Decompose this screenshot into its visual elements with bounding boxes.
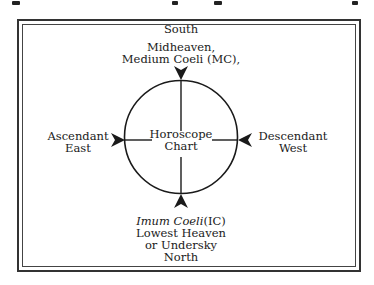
label-descendant: Descendant West: [252, 130, 334, 154]
label-south: South: [131, 23, 231, 35]
label-center: Horoscope Chart: [146, 128, 216, 152]
center-line-2: Chart: [146, 140, 216, 152]
arrow-up-icon: [174, 194, 188, 208]
label-imum-coeli: Imum Coeli(IC) Lowest Heaven or Undersky…: [111, 215, 251, 263]
north-text: North: [111, 251, 251, 263]
arrow-left-icon: [238, 133, 252, 147]
east-text: East: [42, 142, 114, 154]
arrow-down-icon: [174, 66, 188, 80]
label-ascendant: Ascendant East: [42, 130, 114, 154]
medium-coeli-text: Medium Coeli (MC),: [101, 53, 261, 65]
west-text: West: [252, 142, 334, 154]
label-midheaven: Midheaven, Medium Coeli (MC),: [101, 41, 261, 65]
direction-south: South: [131, 23, 231, 35]
